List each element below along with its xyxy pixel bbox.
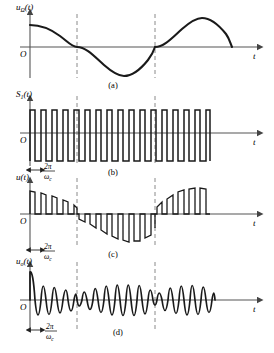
panel-c-y-axis-label: u(t) — [16, 172, 29, 182]
panel-c-origin-label: O — [20, 216, 27, 226]
panel-b-square-wave — [30, 110, 210, 161]
panel-d: uo(t) O t 2π ωc (d) — [16, 256, 258, 342]
signal-waveform-figure: uΩ(t) O t (a) S1(t) O t 2π/ωc 2π ωc (b) … — [0, 0, 274, 353]
panel-b-period-num: 2π — [44, 162, 52, 171]
panel-c-period-num: 2π — [44, 242, 52, 251]
panel-a-origin-label: O — [20, 49, 27, 59]
panel-d-t-label: t — [253, 304, 256, 314]
panel-d-caption: (d) — [113, 327, 123, 337]
panel-d-period-num: 2π — [46, 322, 54, 331]
panel-a-caption: (a) — [108, 80, 118, 90]
panel-d-period-annotation: 2π ωc — [30, 322, 57, 342]
panel-c-period-annotation: 2π ωc — [30, 242, 55, 262]
panel-d-origin-label: O — [20, 302, 27, 312]
panel-b-origin-label: O — [20, 135, 27, 145]
panel-d-y-axis-label: uo(t) — [16, 256, 32, 267]
panel-b-y-axis-label: S1(t) — [16, 89, 32, 100]
panel-d-period-den: ωc — [46, 332, 54, 342]
panel-c-period-den: ωc — [44, 252, 52, 262]
panel-b-t-label: t — [253, 137, 256, 147]
panel-a-t-label: t — [253, 51, 256, 61]
panel-b-caption: (b) — [108, 167, 118, 177]
panel-b: S1(t) O t 2π/ωc 2π ωc (b) — [16, 89, 258, 182]
panel-b-period-den: ωc — [44, 172, 52, 182]
panel-c-t-label: t — [253, 218, 256, 228]
panel-c-caption: (c) — [108, 249, 118, 259]
panel-c-chopped-waveform — [30, 188, 210, 242]
panel-c: u(t) O t 2π ωc (c) — [16, 172, 258, 262]
panel-a: uΩ(t) O t (a) — [16, 2, 258, 90]
panel-b-period-annotation: 2π/ωc 2π ωc — [30, 161, 63, 182]
panel-d-modulated-waveform — [30, 272, 215, 316]
panel-a-y-axis-label: uΩ(t) — [16, 2, 33, 13]
